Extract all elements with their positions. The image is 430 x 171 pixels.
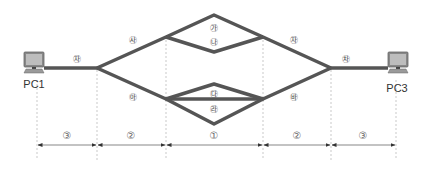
network-diagram: PC1 PC3 ㉶ ㉴ ㉵ ㉮ ㉯ ㉰ ㉱ ㉶ ㉳ ㉷ ③ ② ① ② ③: [0, 0, 430, 171]
segment-label-1: ③: [63, 130, 72, 141]
segment-label-4: ②: [293, 130, 302, 141]
segment-label-5: ③: [359, 130, 368, 141]
link-label-bottom-lower: ㉱: [210, 105, 218, 114]
segment-label-3: ①: [210, 130, 219, 141]
link-label-lower-right: ㉳: [290, 93, 298, 102]
link-label-top-upper: ㉮: [210, 24, 218, 33]
link-label-top-lower: ㉯: [210, 38, 218, 47]
pc3-label: PC3: [386, 82, 407, 94]
link-label-lower-left: ㉵: [129, 93, 137, 102]
link-label-right-access: ㉷: [342, 55, 350, 64]
pc1-label: PC1: [23, 78, 44, 90]
segment-label-2: ②: [127, 130, 136, 141]
pc3-computer-icon[interactable]: [388, 52, 408, 73]
link-label-upper-right: ㉶: [290, 36, 298, 45]
link-label-left-access: ㉶: [73, 55, 81, 64]
link-label-upper-left: ㉴: [129, 36, 137, 45]
link-label-bottom-upper: ㉰: [210, 90, 218, 99]
pc1-computer-icon[interactable]: [24, 52, 44, 73]
